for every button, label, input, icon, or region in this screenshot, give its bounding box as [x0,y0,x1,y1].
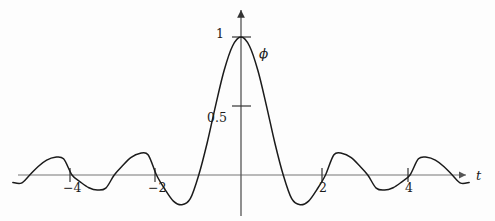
x-axis-label: t [476,169,481,182]
scaling-function-figure: 1 0.5 −4 −2 2 4 t ϕ [0,0,495,221]
x-tick-label-2: 2 [319,182,327,195]
x-tick-label-4: 4 [405,182,413,195]
y-tick-label-1: 1 [216,28,224,41]
x-tick-label-minus2: −2 [148,182,166,195]
curve-label-phi: ϕ [259,47,268,61]
y-tick-label-0.5: 0.5 [207,112,227,125]
x-tick-label-minus4: −4 [63,182,81,195]
